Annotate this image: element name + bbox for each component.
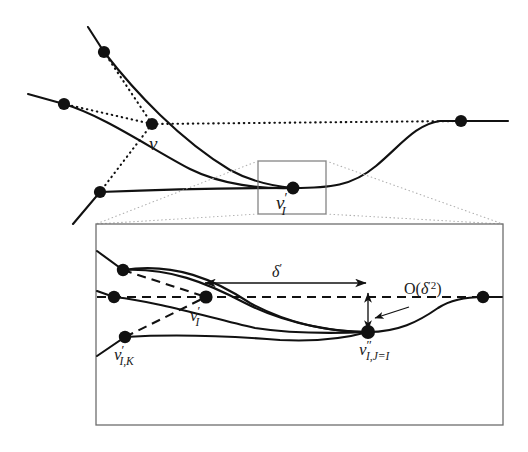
node-v-i-prime (287, 182, 300, 195)
label-v-ij-dprime-sub: I,J=I (365, 350, 391, 363)
magnification-guides (96, 161, 503, 224)
node-upper-left-top (98, 46, 110, 58)
guide-right (326, 161, 503, 224)
detail-edge-lower (97, 332, 368, 356)
svg-text:v′I,K: v′I,K (114, 342, 135, 368)
upper-panel: v v′I (28, 27, 508, 224)
order-leader-arrow (375, 307, 409, 318)
detail-panel: δ′ v′I v′I,K v″I,J=I O(δ′2) (97, 251, 502, 368)
svg-text:v″I,J=I: v″I,J=I (359, 337, 391, 363)
detail-edge-bow-upper (123, 268, 368, 332)
dotted-v-to-topleft (104, 52, 152, 124)
label-delta-prime-mark: ′ (279, 261, 282, 275)
label-order-open: O( (404, 280, 421, 298)
edge-s-curve-right (293, 121, 508, 188)
guide-right-lower (326, 214, 503, 224)
node-detail-vi-prime (199, 290, 212, 303)
label-order-prime2: ′2 (428, 279, 436, 291)
label-v-ik-prime: v′I,K (114, 342, 135, 368)
label-v: v (149, 133, 158, 154)
detail-solid-edges (97, 251, 502, 356)
node-upper-left-mid (58, 98, 70, 110)
label-v-ik-prime-sub: I,K (118, 355, 135, 368)
upper-dotted-construction (64, 52, 461, 192)
dotted-v-to-lowerleft (100, 124, 152, 192)
dotted-v-horizontal (152, 121, 461, 124)
label-delta-prime: δ′ (272, 261, 282, 280)
label-v-i-prime-upper-sub: I (281, 203, 287, 218)
label-v-ij-dprime: v″I,J=I (359, 337, 391, 363)
figure-root: v v′I (0, 0, 528, 452)
node-detail-left (108, 291, 120, 303)
node-detail-upper (117, 264, 129, 276)
label-v-i-prime-detail: v′I (190, 303, 201, 329)
label-order-delta-squared: O(δ′2) (404, 279, 442, 298)
svg-text:δ′: δ′ (272, 261, 282, 280)
label-order-close: ) (436, 280, 441, 298)
guide-left (96, 161, 258, 224)
edge-lower-straight (73, 188, 293, 224)
svg-text:O(δ′2): O(δ′2) (404, 279, 442, 298)
node-detail-right (477, 291, 489, 303)
node-lower-left (94, 186, 106, 198)
upper-nodes (58, 46, 467, 198)
detail-frame (96, 224, 503, 425)
edge-steep-upper (88, 27, 293, 188)
node-v (146, 118, 158, 130)
svg-text:v′I: v′I (190, 303, 201, 329)
guide-left-lower (96, 214, 258, 224)
figure-canvas: v v′I (0, 0, 528, 452)
node-right (455, 115, 467, 127)
dotted-v-to-midleft (64, 104, 152, 124)
